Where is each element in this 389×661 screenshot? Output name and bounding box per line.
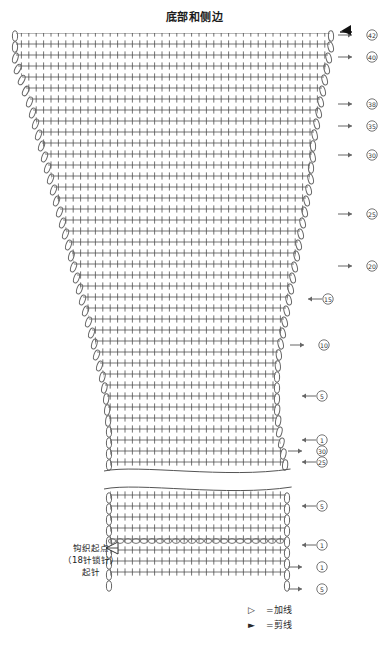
svg-text:30: 30	[318, 448, 326, 455]
cut-yarn-triangle-icon: ►	[248, 618, 266, 633]
svg-text:30: 30	[368, 152, 376, 159]
svg-text:10: 10	[320, 342, 328, 349]
legend: ▷ =加线 ► =剪线	[248, 603, 292, 633]
svg-text:1: 1	[320, 564, 324, 571]
chain-edge-loops	[11, 31, 334, 592]
start-point-annotation: 钩织起点 （18针锁针） 起针	[52, 542, 130, 578]
cut-yarn-marker	[340, 25, 352, 35]
svg-text:15: 15	[324, 296, 332, 303]
chart-page: 底部和侧边 4240383530252015105130255115 钩织起点 …	[0, 0, 389, 661]
svg-text:42: 42	[368, 32, 376, 39]
legend-item: ▷ =加线	[248, 603, 292, 618]
svg-text:5: 5	[320, 393, 324, 400]
svg-text:40: 40	[368, 54, 376, 61]
start-line-2: （18针锁针）	[52, 554, 130, 566]
legend-label: =剪线	[266, 618, 292, 633]
stitch-grid	[14, 29, 330, 586]
add-yarn-triangle-icon: ▷	[248, 603, 266, 618]
svg-text:25: 25	[318, 459, 326, 466]
svg-text:25: 25	[368, 211, 376, 218]
svg-text:20: 20	[368, 263, 376, 270]
start-line-1: 钩织起点	[52, 542, 130, 554]
svg-text:1: 1	[320, 542, 324, 549]
row-number-markers: 4240383530252015105130255115	[288, 30, 377, 594]
svg-text:38: 38	[368, 101, 376, 108]
svg-text:35: 35	[368, 123, 376, 130]
legend-label: =加线	[266, 603, 292, 618]
svg-text:5: 5	[320, 586, 324, 593]
omission-break-lines	[104, 469, 292, 491]
svg-text:5: 5	[320, 503, 324, 510]
start-line-3: 起针	[52, 566, 130, 578]
legend-item: ► =剪线	[248, 618, 292, 633]
svg-text:1: 1	[320, 437, 324, 444]
